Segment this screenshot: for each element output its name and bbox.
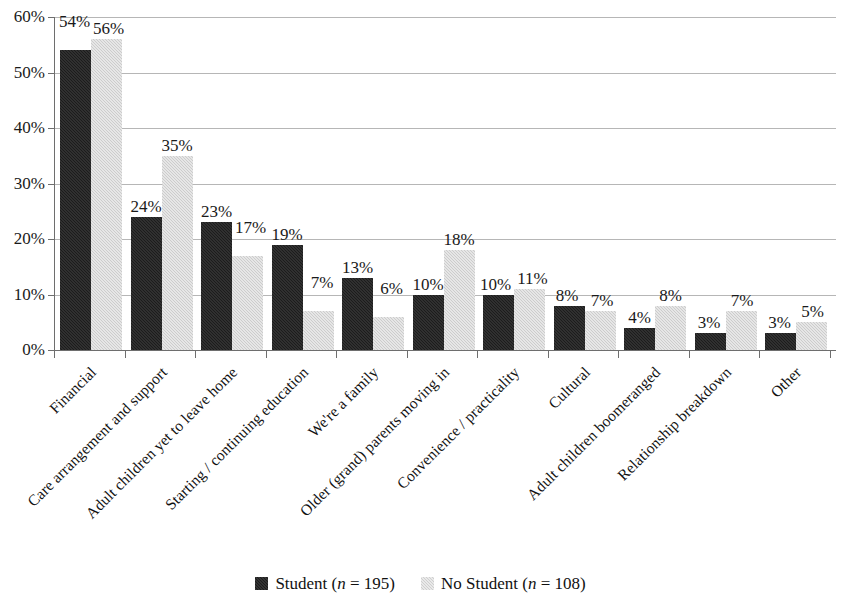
bar-value-label: 13% [338,259,378,276]
x-tick-mark-1 [125,351,126,358]
bar-value-label: 5% [793,303,833,320]
bar [272,245,303,350]
bar [373,317,404,350]
bar-value-label: 24% [126,198,166,215]
x-tick-mark-7 [548,351,549,358]
bar-value-label: 17% [231,219,271,236]
bar [483,295,514,351]
y-tick-label: 10% [14,286,45,303]
bar-value-label: 4% [620,309,660,326]
x-tick-mark-9 [689,351,690,358]
bar [131,217,162,350]
bar-value-label: 56% [89,20,129,37]
bar [413,295,444,351]
y-tick-mark-20 [48,239,55,240]
category-label: Older (grand) parents moving in [297,364,452,519]
category-label: Adult children boomeranged [524,364,663,503]
y-tick-mark-10 [48,295,55,296]
category-label: Convenience / practicality [394,364,522,492]
category-label: Other [768,364,805,401]
category-label: Care arrangement and support [24,364,170,510]
y-tick-mark-40 [48,128,55,129]
gridline-40 [54,128,836,129]
category-label: We're a family [305,364,381,440]
bar [162,156,193,350]
bar-value-label: 7% [302,274,342,291]
x-tick-mark-3 [266,351,267,358]
legend-item[interactable]: No Student (n = 108) [421,575,586,592]
bar [585,311,616,350]
bar [554,306,585,350]
x-tick-mark-5 [407,351,408,358]
bar [796,322,827,350]
gridline-60 [54,17,836,18]
legend-swatch-student [255,577,268,590]
grouped-bar-chart: 0%10%20%30%40%50%60% 54%24%23%19%13%10%1… [0,0,841,601]
bar [695,333,726,350]
y-tick-mark-50 [48,73,55,74]
legend-swatch-nostudent [421,577,434,590]
category-label: Starting / continuing education [162,364,311,513]
bar-value-label: 3% [689,314,729,331]
bar-value-label: 18% [439,231,479,248]
category-label: Cultural [545,364,593,412]
bar [726,311,757,350]
x-tick-mark-4 [336,351,337,358]
bar [624,328,655,350]
gridline-50 [54,73,836,74]
bar-value-label: 19% [267,226,307,243]
bar-value-label: 7% [582,292,622,309]
bar [201,222,232,350]
legend-item[interactable]: Student (n = 195) [255,575,395,592]
bar-value-label: 6% [372,280,412,297]
plot-area [54,17,836,350]
chart-legend: Student (n = 195)No Student (n = 108) [0,575,841,592]
y-tick-label: 30% [14,175,45,192]
y-tick-label: 0% [22,341,45,358]
x-axis-line [54,350,836,351]
x-tick-mark-6 [477,351,478,358]
legend-label: Student (n = 195) [275,575,395,592]
bar [303,311,334,350]
bar-value-label: 8% [651,287,691,304]
bar-value-label: 10% [408,276,448,293]
bar [655,306,686,350]
bar-value-label: 35% [157,137,197,154]
y-tick-label: 60% [14,8,45,25]
x-tick-mark-8 [618,351,619,358]
y-tick-mark-30 [48,184,55,185]
bar-value-label: 10% [476,276,516,293]
bar-value-label: 8% [547,287,587,304]
x-tick-mark-2 [195,351,196,358]
x-tick-mark-0 [54,351,55,358]
y-tick-label: 50% [14,64,45,81]
bar [444,250,475,350]
category-label: Financial [47,364,100,417]
y-tick-label: 20% [14,230,45,247]
legend-label: No Student (n = 108) [441,575,586,592]
x-tick-mark-10 [759,351,760,358]
bar [514,289,545,350]
y-tick-label: 40% [14,119,45,136]
bar [91,39,122,350]
x-tick-mark-11 [830,351,831,358]
bar [60,50,91,350]
bar-value-label: 7% [722,292,762,309]
bar-value-label: 11% [513,270,553,287]
bar [232,256,263,350]
category-label: Adult children yet to leave home [83,364,241,522]
bar [765,333,796,350]
bar [342,278,373,350]
